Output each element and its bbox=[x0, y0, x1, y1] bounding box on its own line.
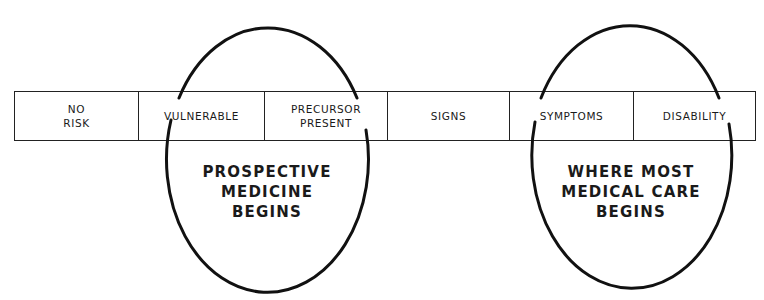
medical-care-oval bbox=[532, 26, 732, 289]
prospective-medicine-oval bbox=[166, 28, 368, 292]
oval-overlays bbox=[0, 0, 764, 300]
diagram: NO RISK VULNERABLE PRECURSOR PRESENT SIG… bbox=[0, 0, 764, 300]
prospective-medicine-label: PROSPECTIVE MEDICINE BEGINS bbox=[172, 162, 362, 222]
medical-care-label: WHERE MOST MEDICAL CARE BEGINS bbox=[531, 162, 731, 222]
